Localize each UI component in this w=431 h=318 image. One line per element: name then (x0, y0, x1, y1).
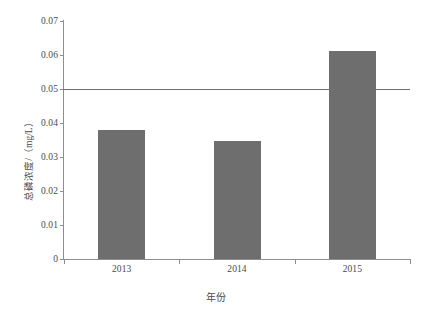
x-axis-line (63, 259, 411, 260)
bar-chart-figure: 总磷浓度/（mg/L） 00.010.020.030.040.050.060.0… (0, 0, 431, 318)
x-tick-mark (64, 259, 65, 264)
y-tick-mark (60, 123, 64, 124)
y-tick-label: 0.07 (41, 16, 58, 26)
y-tick-mark (60, 191, 64, 192)
x-tick-label: 2013 (112, 264, 131, 274)
y-tick-mark (60, 55, 64, 56)
y-tick-label: 0 (53, 254, 58, 264)
bar (214, 141, 261, 259)
x-tick-mark (410, 259, 411, 264)
y-tick-label: 0.04 (41, 118, 58, 128)
y-tick-label: 0.01 (41, 220, 58, 230)
x-tick-label: 2015 (343, 264, 362, 274)
y-tick-label: 0.03 (41, 152, 58, 162)
y-tick-label: 0.02 (41, 186, 58, 196)
plot-area: 00.010.020.030.040.050.060.07 (64, 21, 410, 259)
y-tick-mark (60, 157, 64, 158)
x-tick-label: 2014 (227, 264, 246, 274)
y-tick-mark (60, 21, 64, 22)
x-axis-title: 年份 (0, 289, 431, 304)
y-tick-mark (60, 225, 64, 226)
x-tick-mark (179, 259, 180, 264)
y-tick-label: 0.05 (41, 84, 58, 94)
bar (329, 51, 376, 259)
reference-line (63, 89, 410, 90)
y-tick-label: 0.06 (41, 50, 58, 60)
x-tick-mark (295, 259, 296, 264)
y-axis-title: 总磷浓度/（mg/L） (21, 84, 35, 234)
bar (98, 130, 145, 259)
